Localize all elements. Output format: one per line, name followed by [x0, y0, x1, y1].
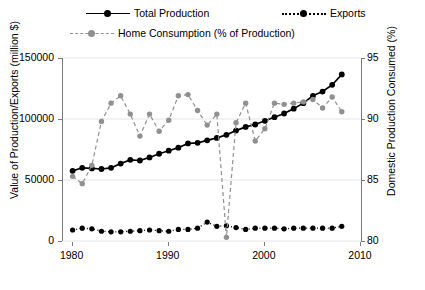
- data-point: [320, 105, 325, 110]
- data-point: [185, 141, 191, 147]
- data-point: [89, 163, 94, 168]
- tick-mark: [361, 180, 365, 181]
- data-point: [137, 158, 143, 164]
- y-axis-left-tick-100000: 100000: [0, 112, 54, 124]
- data-point: [166, 118, 171, 123]
- chart-figure: Total Production Exports Home Consumptio…: [0, 0, 425, 290]
- legend-item-total-production: Total Production: [86, 6, 209, 20]
- data-point: [339, 224, 344, 229]
- data-point: [118, 161, 124, 167]
- data-point: [99, 166, 105, 172]
- data-point: [272, 100, 277, 105]
- tick-mark: [264, 242, 265, 246]
- data-point: [175, 145, 181, 151]
- data-point: [195, 226, 200, 231]
- data-point: [108, 100, 113, 105]
- y-axis-right-tick-80: 80: [367, 234, 423, 246]
- legend-label-total-production: Total Production: [134, 8, 209, 19]
- legend-swatch-exports: [282, 8, 326, 19]
- legend-label-home-consumption: Home Consumption (% of Production): [118, 28, 295, 39]
- data-point: [339, 109, 344, 114]
- tick-mark: [168, 242, 169, 246]
- data-point: [310, 97, 315, 102]
- grid-lines: [63, 58, 361, 241]
- data-point: [70, 168, 76, 174]
- data-point: [204, 122, 209, 127]
- data-point: [330, 226, 335, 231]
- tick-mark: [72, 242, 73, 246]
- data-point: [147, 155, 153, 161]
- data-point: [233, 120, 238, 125]
- data-point: [157, 228, 162, 233]
- data-point: [127, 157, 133, 163]
- data-point: [156, 151, 162, 157]
- x-axis-tick-1990: 1990: [138, 249, 198, 261]
- legend-label-exports: Exports: [330, 8, 366, 19]
- data-point: [301, 226, 306, 231]
- data-point: [147, 111, 152, 116]
- data-point: [282, 226, 287, 231]
- data-point: [70, 227, 75, 232]
- data-point: [272, 114, 278, 120]
- data-point: [195, 108, 200, 113]
- data-point: [205, 219, 210, 224]
- data-point: [272, 226, 277, 231]
- legend-swatch-total-production: [86, 8, 130, 19]
- x-axis-tick-1980: 1980: [42, 249, 102, 261]
- tick-mark: [360, 242, 361, 246]
- data-point: [137, 133, 142, 138]
- data-point: [185, 92, 190, 97]
- y-axis-right-tick-95: 95: [367, 51, 423, 63]
- data-point: [137, 228, 142, 233]
- tick-mark: [58, 241, 62, 242]
- data-point: [70, 174, 75, 179]
- data-point: [253, 226, 258, 231]
- data-point: [281, 102, 286, 107]
- data-point: [243, 124, 249, 130]
- data-point: [262, 126, 267, 131]
- tick-mark: [361, 241, 365, 242]
- data-point: [262, 118, 268, 124]
- data-point: [176, 93, 181, 98]
- data-point: [262, 226, 267, 231]
- y-axis-left-tick-150000: 150000: [0, 51, 54, 63]
- data-point: [224, 223, 229, 228]
- x-axis-tick-2000: 2000: [234, 249, 294, 261]
- data-point: [253, 138, 258, 143]
- data-point: [128, 111, 133, 116]
- data-point: [118, 93, 123, 98]
- data-series-layer: [70, 72, 345, 240]
- data-point: [214, 111, 219, 116]
- tick-mark: [361, 119, 365, 120]
- data-point: [118, 229, 123, 234]
- data-point: [329, 94, 334, 99]
- data-point: [80, 226, 85, 231]
- data-point: [185, 227, 190, 232]
- data-point: [89, 226, 94, 231]
- data-point: [233, 225, 238, 230]
- data-point: [320, 89, 326, 95]
- data-point: [281, 111, 287, 117]
- data-point: [224, 235, 229, 240]
- data-point: [108, 165, 114, 171]
- data-point: [166, 229, 171, 234]
- y-axis-left-tick-0: 0: [0, 234, 54, 246]
- data-point: [195, 140, 201, 146]
- tick-mark: [58, 180, 62, 181]
- y-axis-left-tick-50000: 50000: [0, 173, 54, 185]
- data-point: [291, 100, 296, 105]
- data-point: [156, 129, 161, 134]
- tick-mark: [58, 119, 62, 120]
- data-point: [166, 148, 172, 154]
- tick-mark: [361, 58, 365, 59]
- legend-swatch-home-consumption: [70, 28, 114, 39]
- series-exports: [70, 219, 344, 234]
- data-point: [339, 72, 345, 78]
- y-axis-right-tick-85: 85: [367, 173, 423, 185]
- chart-legend: Total Production Exports Home Consumptio…: [0, 6, 425, 52]
- data-point: [108, 229, 113, 234]
- legend-item-exports: Exports: [282, 6, 366, 20]
- data-point: [329, 82, 335, 88]
- data-point: [291, 106, 297, 112]
- x-axis-tick-2010: 2010: [330, 249, 390, 261]
